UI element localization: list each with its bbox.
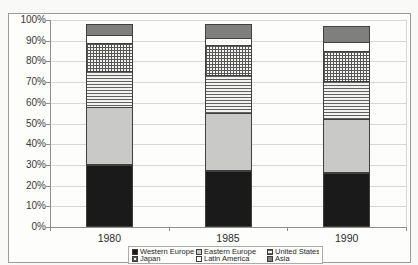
y-tick-20: [46, 186, 50, 187]
y-tick-label-10: 10%: [4, 201, 46, 211]
bar-1985-segment-united-states: [205, 75, 252, 114]
legend-swatch-asia: [267, 256, 273, 262]
y-tick-label-100: 100%: [4, 15, 46, 25]
legend-label-japan: Japan: [140, 255, 160, 263]
bar-1985: [205, 20, 252, 227]
y-tick-label-30: 30%: [4, 160, 46, 170]
y-tick-80: [46, 61, 50, 62]
legend-item-japan: Japan: [132, 255, 196, 263]
y-tick-label-70: 70%: [4, 77, 46, 87]
bar-1990: [323, 22, 370, 227]
bar-1980-segment-eastern-europe: [86, 107, 133, 165]
y-tick-label-90: 90%: [4, 36, 46, 46]
y-tick-30: [46, 165, 50, 166]
legend-item-asia: Asia: [267, 255, 319, 263]
bar-1990-segment-western-europe: [323, 173, 370, 227]
y-tick-label-50: 50%: [4, 119, 46, 129]
bar-1990-segment-eastern-europe: [323, 119, 370, 173]
bar-1980: [86, 20, 133, 227]
bar-1990-segment-asia: [323, 26, 370, 43]
x-tick-1: [169, 227, 170, 231]
x-category-label-1990: 1990: [317, 233, 377, 244]
x-axis-line: [50, 227, 407, 228]
legend: Western EuropeEastern EuropeUnited State…: [128, 246, 323, 264]
x-category-label-1980: 1980: [79, 233, 139, 244]
bar-1990-segment-united-states: [323, 81, 370, 120]
bar-1985-segment-asia: [205, 24, 252, 38]
legend-swatch-latin-america: [196, 256, 202, 262]
y-tick-70: [46, 82, 50, 83]
legend-item-latin-america: Latin America: [196, 255, 267, 263]
y-tick-100: [46, 20, 50, 21]
y-tick-label-20: 20%: [4, 181, 46, 191]
x-tick-0: [50, 227, 51, 231]
bar-1985-segment-western-europe: [205, 171, 252, 227]
bar-1990-segment-japan: [323, 51, 370, 82]
legend-label-latin-america: Latin America: [204, 255, 249, 263]
legend-swatch-japan: [132, 256, 138, 262]
bar-1980-segment-japan: [86, 43, 133, 72]
y-tick-90: [46, 41, 50, 42]
y-tick-label-0: 0%: [4, 222, 46, 232]
y-tick-label-40: 40%: [4, 139, 46, 149]
x-tick-3: [406, 227, 407, 231]
y-tick-40: [46, 144, 50, 145]
plot-right-border: [406, 20, 407, 227]
bar-1980-segment-western-europe: [86, 165, 133, 227]
y-axis-line: [50, 20, 51, 227]
legend-label-asia: Asia: [275, 255, 290, 263]
stacked-bar-chart: Western EuropeEastern EuropeUnited State…: [0, 0, 418, 265]
y-tick-label-60: 60%: [4, 98, 46, 108]
bar-1985-segment-japan: [205, 45, 252, 76]
x-tick-2: [287, 227, 288, 231]
y-tick-50: [46, 124, 50, 125]
bar-1980-segment-united-states: [86, 71, 133, 108]
y-tick-10: [46, 206, 50, 207]
x-category-label-1985: 1985: [198, 233, 258, 244]
y-tick-60: [46, 103, 50, 104]
y-tick-label-80: 80%: [4, 56, 46, 66]
bar-1985-segment-eastern-europe: [205, 113, 252, 171]
